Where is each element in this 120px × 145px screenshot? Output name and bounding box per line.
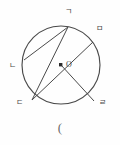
- point-label-giyeok: ㄱ: [65, 8, 72, 16]
- point-label-digeut: ㄷ: [16, 99, 23, 107]
- point-label-mieum: ㅁ: [96, 25, 103, 33]
- chord-giyeok-digeut: [32, 27, 68, 100]
- point-label-nieun: ㄴ: [9, 62, 16, 70]
- center-label-o: O: [66, 61, 72, 69]
- geometry-figure: ㄱ ㅁ ㄴ ㄷ ㄹ O (: [0, 0, 120, 145]
- center-point-marker: [59, 63, 62, 66]
- figure-caption: (: [0, 121, 120, 134]
- radius-center-rieul: [61, 65, 94, 101]
- chord-giyeok-nieun: [24, 27, 68, 60]
- point-label-rieul: ㄹ: [99, 99, 106, 107]
- diameter-digeut-mieum: [32, 42, 93, 100]
